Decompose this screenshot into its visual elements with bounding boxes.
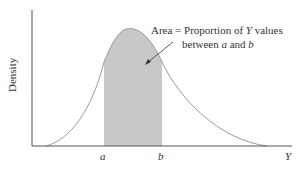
- annotation-text: Area = Proportion of: [151, 24, 246, 36]
- x-axis-label: Y: [285, 150, 291, 162]
- annotation-line2: between a and b: [182, 38, 254, 50]
- annotation-var: b: [248, 38, 254, 50]
- annotation-text: and: [227, 38, 248, 50]
- annotation-line1: Area = Proportion of Y values: [151, 24, 283, 36]
- y-axis-label: Density: [6, 58, 18, 92]
- annotation-text: values: [252, 24, 283, 36]
- tick-label-a: a: [100, 150, 106, 162]
- annotation-text: between: [182, 38, 221, 50]
- tick-label-b: b: [158, 150, 164, 162]
